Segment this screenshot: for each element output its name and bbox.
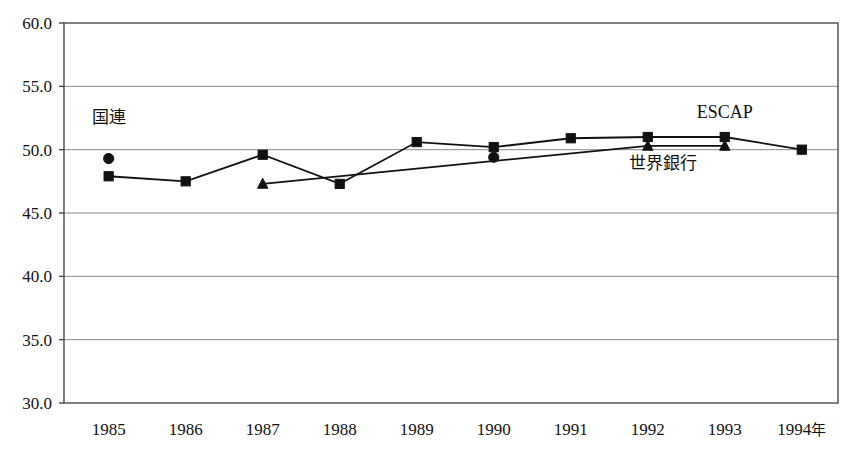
data-point-square <box>258 150 267 159</box>
x-axis-tick-label: 1986 <box>169 420 203 439</box>
x-axis-ticks: 1985198619871988198919901991199219931994… <box>92 420 827 439</box>
y-axis-tick-label: 45.0 <box>22 204 52 223</box>
x-axis-tick-label: 1987 <box>246 420 281 439</box>
line-chart: 30.035.040.045.050.055.060.0 19851986198… <box>0 0 860 452</box>
x-axis-tick-label: 1985 <box>92 420 126 439</box>
series-annotation-label: ESCAP <box>697 102 753 122</box>
series-annotation-label: 世界銀行 <box>629 153 697 173</box>
y-axis-tick-label: 40.0 <box>22 267 52 286</box>
series-lines <box>109 137 802 184</box>
x-axis-tick-label: 1992 <box>631 420 665 439</box>
y-axis-tick-label: 60.0 <box>22 14 52 33</box>
data-point-square <box>566 134 575 143</box>
y-axis-ticks: 30.035.040.045.050.055.060.0 <box>22 14 64 413</box>
x-axis-tick-label: 1988 <box>323 420 357 439</box>
x-axis-tick-label: 1994年 <box>777 420 826 439</box>
y-axis-tick-label: 30.0 <box>22 394 52 413</box>
data-point-square <box>335 179 344 188</box>
data-point-circle <box>489 152 499 162</box>
data-point-square <box>489 143 498 152</box>
x-axis-tick-label: 1989 <box>400 420 434 439</box>
data-point-circle <box>104 153 114 163</box>
chart-container: 30.035.040.045.050.055.060.0 19851986198… <box>0 0 860 452</box>
y-axis-tick-label: 55.0 <box>22 77 52 96</box>
x-axis-tick-label: 1990 <box>477 420 511 439</box>
gridlines-group <box>64 86 838 339</box>
series-annotation-label: 国連 <box>92 107 126 127</box>
series-line-1 <box>109 137 802 184</box>
y-axis-tick-label: 35.0 <box>22 331 52 350</box>
data-point-square <box>181 177 190 186</box>
data-point-square <box>412 137 421 146</box>
data-point-square <box>104 172 113 181</box>
x-axis-tick-label: 1993 <box>708 420 742 439</box>
y-axis-tick-label: 50.0 <box>22 141 52 160</box>
series-markers <box>104 132 807 188</box>
x-axis-tick-label: 1991 <box>554 420 588 439</box>
data-point-square <box>797 145 806 154</box>
